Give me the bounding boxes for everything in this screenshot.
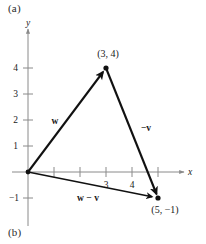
y-tick-label-1: 1 (13, 141, 18, 151)
y-ticks: 4 3 2 1 −1 (9, 63, 33, 203)
vector-label-minus-v: −v (141, 123, 151, 133)
y-tick-label-minus1: −1 (9, 193, 19, 203)
point-origin (26, 170, 31, 175)
y-tick-label-4: 4 (13, 63, 18, 73)
y-tick-label-3: 3 (13, 89, 18, 99)
x-ticks: 3 4 (54, 167, 158, 190)
x-axis-label: x (187, 167, 193, 177)
point-label-3-4: (3, 4) (97, 48, 119, 60)
y-axis-label: y (25, 18, 31, 28)
x-tick-label-4: 4 (130, 180, 135, 190)
vector-label-w: w (52, 116, 59, 126)
y-tick-label-2: 2 (13, 115, 18, 125)
vector-label-w-minus-v: w − v (77, 193, 99, 203)
vector-w-arrow (28, 72, 103, 172)
point-5-minus1 (155, 195, 160, 200)
vector-diagram: x y 3 4 4 3 2 1 −1 (3, 4) (0, 0, 206, 244)
point-3-4 (103, 65, 108, 70)
vector-w (28, 72, 103, 172)
point-label-5-minus1: (5, −1) (151, 204, 178, 216)
